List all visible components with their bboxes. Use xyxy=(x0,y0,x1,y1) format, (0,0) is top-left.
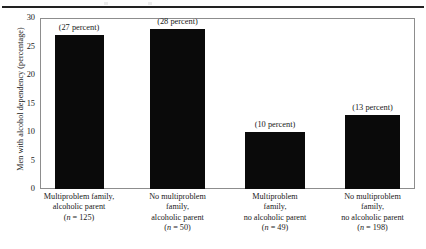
bar-value-label: (13 percent) xyxy=(328,103,418,113)
x-caption-line: No multiproblem xyxy=(317,192,426,202)
x-axis-caption: Multiproblem family,alcoholic parent(n =… xyxy=(20,192,138,223)
bar-value-label: (28 percent) xyxy=(133,17,223,27)
x-caption-line: alcoholic parent xyxy=(20,202,138,212)
x-caption-line: Multiproblem family, xyxy=(20,192,138,202)
x-caption-sample-size: (n = 125) xyxy=(20,213,138,223)
x-axis-caption: No multiproblemfamily,alcoholic parent(n… xyxy=(126,192,230,234)
x-axis-caption: No multiproblemfamily,no alcoholic paren… xyxy=(317,192,426,234)
x-caption-line: family, xyxy=(220,202,330,212)
x-caption-line: alcoholic parent xyxy=(126,213,230,223)
bar xyxy=(345,115,400,189)
x-axis-captions: Multiproblem family,alcoholic parent(n =… xyxy=(40,192,415,248)
x-caption-line: family, xyxy=(317,202,426,212)
figure-bar-chart: Men with alcohol dependency (percentage)… xyxy=(0,0,426,249)
x-caption-line: no alcoholic parent xyxy=(220,213,330,223)
x-axis-caption: Multiproblemfamily,no alcoholic parent(n… xyxy=(220,192,330,234)
bar-value-label: (27 percent) xyxy=(34,23,124,33)
bar xyxy=(245,132,305,189)
x-caption-line: No multiproblem xyxy=(126,192,230,202)
x-caption-line: no alcoholic parent xyxy=(317,213,426,223)
bar-value-label: (10 percent) xyxy=(230,120,320,130)
bar xyxy=(150,29,205,189)
x-caption-line: Multiproblem xyxy=(220,192,330,202)
bar xyxy=(55,35,104,189)
x-caption-sample-size: (n = 198) xyxy=(317,223,426,233)
x-caption-sample-size: (n = 49) xyxy=(220,223,330,233)
x-caption-line: family, xyxy=(126,202,230,212)
x-caption-sample-size: (n = 50) xyxy=(126,223,230,233)
